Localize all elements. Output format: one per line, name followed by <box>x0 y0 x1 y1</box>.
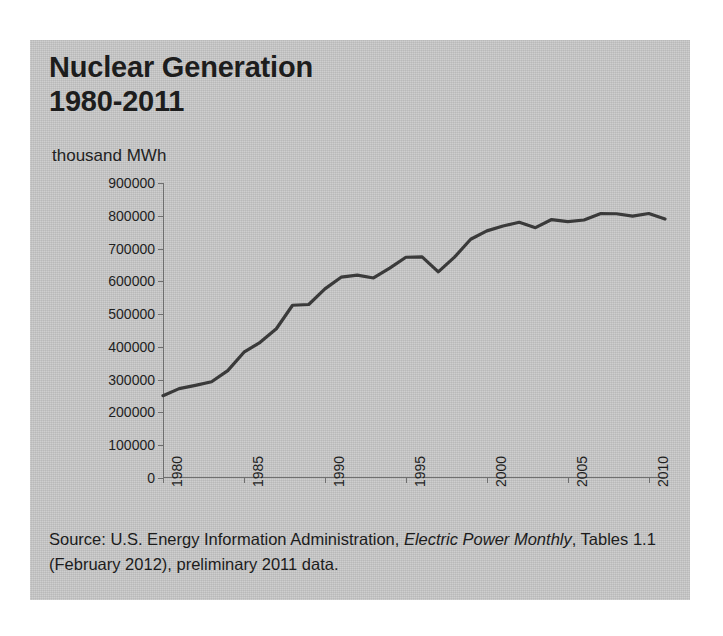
y-axis-tick-label: 700000 <box>108 241 155 257</box>
y-axis-tick-label: 100000 <box>108 437 155 453</box>
y-axis-tick-label: 400000 <box>108 339 155 355</box>
source-note: Source: U.S. Energy Information Administ… <box>49 527 669 577</box>
data-line-series <box>163 183 665 478</box>
chart-title-line-2: 1980-2011 <box>49 84 609 118</box>
y-axis-tick-label: 500000 <box>108 306 155 322</box>
source-prefix: Source: U.S. Energy Information Administ… <box>49 530 404 548</box>
y-axis-unit-label: thousand MWh <box>52 146 166 166</box>
source-publication-title: Electric Power Monthly <box>404 530 572 548</box>
chart-title-block: Nuclear Generation 1980-2011 <box>49 50 609 118</box>
y-axis-tick-label: 600000 <box>108 273 155 289</box>
y-axis-tick-label: 0 <box>147 470 155 486</box>
plot-area: 9000008000007000006000005000004000003000… <box>163 183 665 478</box>
chart-title-line-1: Nuclear Generation <box>49 50 609 84</box>
y-axis-tick-label: 300000 <box>108 372 155 388</box>
y-axis-tick-label: 200000 <box>108 404 155 420</box>
chart-figure-panel: Nuclear Generation 1980-2011 thousand MW… <box>30 40 690 600</box>
y-axis-tick-label: 800000 <box>108 208 155 224</box>
y-axis-tick-label: 900000 <box>108 175 155 191</box>
